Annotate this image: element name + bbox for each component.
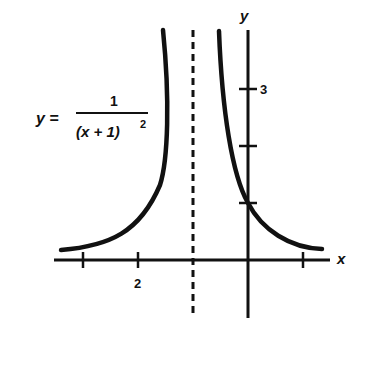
x-tick-label: 2 bbox=[134, 276, 141, 291]
curve-left-branch bbox=[61, 30, 167, 250]
svg-text:1: 1 bbox=[110, 93, 118, 109]
function-graph: x y 2 3 y = 1 (x + 1) 2 bbox=[0, 0, 369, 374]
y-tick-label: 3 bbox=[260, 82, 267, 97]
svg-text:y =: y = bbox=[35, 110, 59, 127]
svg-text:(x + 1): (x + 1) bbox=[76, 123, 120, 140]
y-axis-label: y bbox=[239, 7, 249, 24]
x-axis-label: x bbox=[336, 250, 346, 267]
svg-text:2: 2 bbox=[140, 118, 146, 130]
curve-right-branch bbox=[219, 31, 322, 249]
equation-label: y = 1 (x + 1) 2 bbox=[35, 93, 148, 140]
